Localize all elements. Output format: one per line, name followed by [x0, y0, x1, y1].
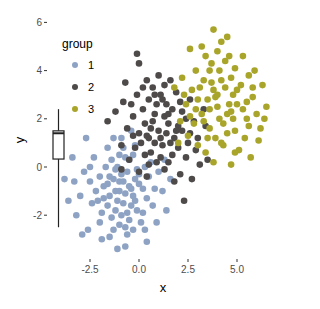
- data-point: [224, 130, 231, 137]
- data-point: [138, 219, 145, 226]
- data-point: [244, 99, 251, 106]
- data-point: [228, 108, 235, 115]
- data-point: [124, 169, 131, 176]
- data-point: [79, 231, 86, 238]
- data-point: [112, 188, 119, 195]
- data-point: [167, 140, 174, 147]
- data-point: [228, 75, 235, 82]
- data-point: [99, 236, 106, 243]
- data-point: [108, 214, 115, 221]
- data-point: [93, 188, 100, 195]
- data-point: [61, 176, 68, 183]
- data-point: [197, 84, 204, 91]
- data-point: [136, 130, 143, 137]
- legend-key-2: [72, 84, 78, 90]
- data-point: [232, 128, 239, 135]
- y-tick-label: 6: [36, 17, 42, 28]
- data-point: [112, 166, 119, 173]
- data-point: [136, 181, 143, 188]
- data-point: [222, 84, 229, 91]
- data-point: [234, 101, 241, 108]
- data-point: [87, 178, 94, 185]
- data-point: [232, 149, 239, 156]
- data-point: [210, 26, 217, 33]
- data-point: [116, 222, 123, 229]
- data-point: [191, 120, 198, 127]
- data-point: [97, 173, 104, 180]
- data-point: [151, 140, 158, 147]
- data-point: [179, 128, 186, 135]
- data-point: [181, 91, 188, 98]
- x-tick-label: 2.5: [181, 264, 195, 275]
- data-point: [118, 212, 125, 219]
- y-axis: -20246: [33, 17, 47, 221]
- data-point: [189, 176, 196, 183]
- data-point: [171, 84, 178, 91]
- data-point: [128, 101, 135, 108]
- data-point: [204, 96, 211, 103]
- data-point: [140, 210, 147, 217]
- data-point: [185, 132, 192, 139]
- data-point: [102, 164, 109, 171]
- data-point: [124, 210, 131, 217]
- data-point: [183, 101, 190, 108]
- data-point: [157, 135, 164, 142]
- data-point: [165, 159, 172, 166]
- data-point: [189, 87, 196, 94]
- data-point: [142, 152, 149, 159]
- data-point: [251, 67, 258, 74]
- data-point: [118, 135, 125, 142]
- data-point: [214, 48, 221, 55]
- data-point: [122, 79, 129, 86]
- data-point: [177, 99, 184, 106]
- data-point: [73, 212, 80, 219]
- data-point: [148, 125, 155, 132]
- x-tick-label: 5.0: [230, 264, 244, 275]
- data-point: [195, 96, 202, 103]
- data-point: [179, 75, 186, 82]
- data-point: [222, 58, 229, 65]
- data-point: [108, 157, 115, 164]
- legend-title: group: [62, 37, 93, 51]
- data-point: [83, 135, 90, 142]
- data-point: [118, 142, 125, 149]
- data-point: [263, 104, 270, 111]
- data-point: [183, 154, 190, 161]
- legend-label-3: 3: [88, 103, 94, 115]
- data-point: [240, 53, 247, 60]
- data-point: [149, 202, 156, 209]
- y-tick-label: 0: [36, 162, 42, 173]
- data-point: [138, 140, 145, 147]
- data-point: [216, 116, 223, 123]
- data-point: [177, 171, 184, 178]
- data-point: [195, 142, 202, 149]
- data-point: [208, 79, 215, 86]
- data-point: [255, 137, 262, 144]
- data-point: [87, 164, 94, 171]
- data-point: [124, 125, 131, 132]
- data-point: [242, 135, 249, 142]
- data-point: [112, 108, 119, 115]
- data-point: [120, 178, 127, 185]
- data-point: [165, 111, 172, 118]
- data-point: [142, 226, 149, 233]
- data-point: [253, 111, 260, 118]
- marginal-boxplot: [53, 109, 64, 227]
- data-point: [114, 197, 121, 204]
- data-point: [171, 178, 178, 185]
- data-point: [140, 84, 147, 91]
- data-point: [214, 104, 221, 111]
- data-point: [130, 226, 137, 233]
- data-point: [142, 120, 149, 127]
- data-point: [136, 60, 143, 67]
- data-point: [234, 87, 241, 94]
- data-point: [193, 67, 200, 74]
- data-point: [134, 50, 141, 57]
- data-point: [144, 77, 151, 84]
- data-point: [165, 120, 172, 127]
- data-point: [122, 224, 129, 231]
- data-point: [204, 135, 211, 142]
- data-point: [161, 166, 168, 173]
- data-point: [95, 197, 102, 204]
- data-point: [104, 181, 111, 188]
